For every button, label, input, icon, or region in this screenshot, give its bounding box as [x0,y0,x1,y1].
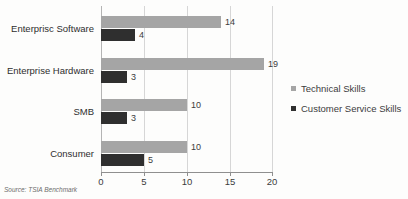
bar-chart: Enterprisc Software Enterprise Hardware … [0,0,408,199]
bar-customer-service [101,154,144,166]
category-label: SMB [73,106,94,117]
bar-technical [101,58,264,70]
plot-area: 14 4 19 3 10 3 10 [101,6,273,172]
x-axis-tick-labels: 0 5 10 15 20 [101,176,273,190]
bar-technical [101,99,187,111]
bar-value-technical: 10 [191,141,201,153]
bar-technical [101,16,221,28]
x-tick-label: 20 [267,176,278,187]
category-label: Enterprisc Software [11,23,94,34]
bar-value-customer-service: 3 [131,71,136,83]
bar-value-technical: 14 [225,16,235,28]
legend-label: Technical Skills [301,83,365,94]
bar-value-customer-service: 3 [131,112,136,124]
bar-value-technical: 10 [191,99,201,111]
bar-customer-service [101,112,127,124]
legend-swatch-icon [291,106,296,111]
x-tick-label: 0 [98,176,103,187]
category-axis-labels: Enterprisc Software Enterprise Hardware … [0,6,98,172]
legend-label: Customer Service Skills [301,103,401,114]
bar-value-customer-service: 4 [139,29,144,41]
category-label: Consumer [50,148,94,159]
legend-item-technical-skills: Technical Skills [291,83,401,94]
bar-rows: 14 4 19 3 10 3 10 [101,6,273,172]
source-note: Source: TSIA Benchmark [4,186,77,193]
x-tick-label: 10 [182,176,193,187]
x-tick-label: 5 [141,176,146,187]
chart-legend: Technical Skills Customer Service Skills [291,83,401,123]
legend-item-customer-service-skills: Customer Service Skills [291,103,401,114]
bar-value-technical: 19 [268,58,278,70]
bar-value-customer-service: 5 [148,154,153,166]
category-label: Enterprise Hardware [7,65,94,76]
bar-customer-service [101,71,127,83]
bar-customer-service [101,29,135,41]
bar-technical [101,141,187,153]
legend-swatch-icon [291,86,296,91]
x-tick-label: 15 [225,176,236,187]
x-axis [101,172,273,173]
